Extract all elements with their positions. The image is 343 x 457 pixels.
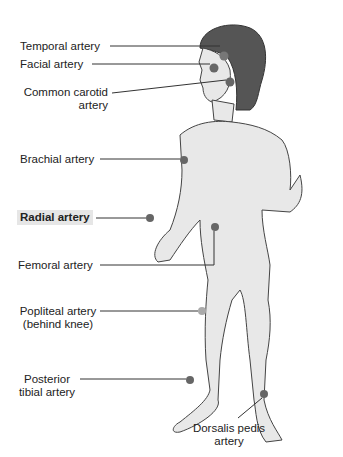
label-posterior-tibial-line2: tibial artery	[14, 386, 80, 399]
label-radial-artery: Radial artery	[17, 210, 93, 225]
label-posterior-tibial-line1: Posterior	[14, 373, 80, 386]
label-femoral-artery: Femoral artery	[18, 259, 93, 272]
label-popliteal-line2: (behind knee)	[16, 318, 100, 331]
label-dorsalis-line1: Dorsalis pedis	[186, 422, 272, 435]
label-common-carotid-line1: Common carotid	[20, 86, 108, 99]
label-dorsalis-pedis-artery: Dorsalis pedis artery	[186, 422, 272, 448]
label-dorsalis-line2: artery	[186, 435, 272, 448]
label-common-carotid-line2: artery	[20, 99, 108, 112]
pulse-points-diagram: Temporal artery Facial artery Common car…	[0, 0, 343, 457]
label-popliteal-artery: Popliteal artery (behind knee)	[16, 305, 100, 331]
label-common-carotid-artery: Common carotid artery	[20, 86, 108, 112]
label-brachial-artery: Brachial artery	[20, 153, 94, 166]
label-popliteal-line1: Popliteal artery	[16, 305, 100, 318]
label-temporal-artery: Temporal artery	[20, 40, 100, 53]
label-posterior-tibial-artery: Posterior tibial artery	[14, 373, 80, 399]
label-facial-artery: Facial artery	[20, 58, 83, 71]
